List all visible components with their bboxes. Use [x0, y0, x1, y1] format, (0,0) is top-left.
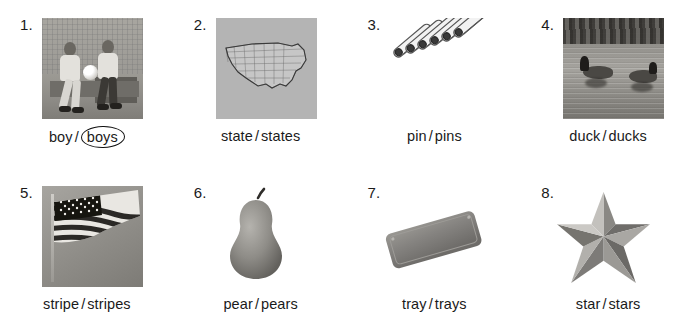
item-picture-star [553, 188, 654, 289]
option-plural[interactable]: pins [435, 128, 462, 144]
star-icon [553, 188, 654, 289]
item-picture-pear [206, 186, 307, 287]
option-singular[interactable]: star [576, 296, 601, 312]
option-plural[interactable]: stars [609, 296, 641, 312]
tray-icon [376, 196, 491, 286]
worksheet-item-6: 6. [174, 182, 348, 327]
safety-pins-icon [390, 18, 491, 119]
illustration-safety-pins [390, 18, 491, 119]
item-caption: star/stars [521, 296, 695, 312]
item-number: 6. [194, 184, 207, 201]
option-singular[interactable]: state [221, 128, 253, 144]
item-number: 5. [20, 184, 33, 201]
item-number: 2. [194, 16, 207, 33]
option-separator: / [600, 296, 608, 312]
flag-icon [42, 186, 143, 287]
item-number: 1. [20, 16, 33, 33]
option-singular[interactable]: tray [402, 296, 427, 312]
item-caption: pin/pins [348, 128, 522, 144]
item-picture-flag [42, 186, 143, 287]
option-separator: / [79, 296, 87, 312]
photo-two-boys [42, 18, 143, 119]
item-picture-boys [42, 18, 143, 119]
worksheet-row-2: 5. [0, 182, 695, 327]
photo-usa-map [216, 18, 317, 119]
photo-american-flag [42, 186, 143, 287]
worksheet-item-8: 8. [521, 182, 695, 327]
worksheet-row-1: 1. [0, 14, 695, 160]
worksheet-item-1: 1. [0, 14, 174, 160]
option-separator: / [427, 128, 435, 144]
option-separator: / [427, 296, 435, 312]
item-caption: state/states [174, 128, 348, 144]
photo-two-ducks [563, 18, 664, 119]
option-singular[interactable]: pear [223, 296, 252, 312]
option-singular[interactable]: duck [569, 128, 600, 144]
item-number: 3. [368, 16, 381, 33]
option-separator: / [253, 128, 261, 144]
item-picture-pins [390, 18, 491, 119]
option-separator: / [73, 129, 81, 145]
pear-icon [206, 186, 307, 287]
option-plural[interactable]: stripes [87, 296, 130, 312]
item-caption: tray/trays [348, 296, 522, 312]
worksheet-item-3: 3. [348, 14, 522, 160]
option-separator: / [253, 296, 261, 312]
item-picture-ducks [563, 18, 664, 119]
item-caption: boy/boys [0, 128, 174, 146]
photo-tray [376, 196, 486, 297]
option-plural[interactable]: states [261, 128, 300, 144]
item-caption: stripe/stripes [0, 296, 174, 312]
option-plural[interactable]: ducks [609, 128, 647, 144]
option-singular[interactable]: stripe [43, 296, 79, 312]
option-singular[interactable]: boy [49, 129, 73, 145]
item-number: 8. [541, 184, 554, 201]
option-plural[interactable]: boys [81, 128, 125, 146]
option-separator: / [600, 128, 608, 144]
option-plural[interactable]: trays [435, 296, 467, 312]
item-caption: pear/pears [174, 296, 348, 312]
item-number: 4. [541, 16, 554, 33]
worksheet-item-2: 2. state/states [174, 14, 348, 160]
usa-map-icon [222, 38, 312, 100]
option-plural[interactable]: pears [261, 296, 298, 312]
item-caption: duck/ducks [521, 128, 695, 144]
photo-star [553, 188, 654, 289]
worksheet-item-7: 7. [348, 182, 522, 327]
worksheet-item-4: 4. duck/d [521, 14, 695, 160]
photo-pear [206, 186, 307, 287]
plural-nouns-worksheet: 1. [0, 0, 695, 327]
option-singular[interactable]: pin [407, 128, 427, 144]
item-picture-tray [376, 196, 486, 297]
item-picture-map [216, 18, 317, 119]
worksheet-item-5: 5. [0, 182, 174, 327]
